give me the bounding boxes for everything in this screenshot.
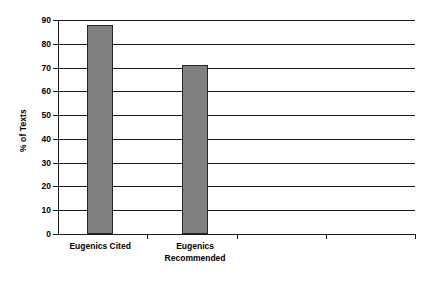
bar bbox=[87, 25, 113, 234]
y-axis-line bbox=[58, 20, 59, 234]
y-tick-label: 60 bbox=[42, 87, 51, 96]
y-tick-label: 40 bbox=[42, 135, 51, 144]
x-axis-line bbox=[58, 234, 415, 235]
y-axis-title: % of Texts bbox=[16, 86, 30, 176]
y-tick-label: 0 bbox=[46, 230, 51, 239]
y-tick-label: 10 bbox=[42, 206, 51, 215]
y-tick-label: 50 bbox=[42, 111, 51, 120]
plot-area: 0102030405060708090 bbox=[58, 20, 415, 234]
x-tick-mark bbox=[415, 234, 416, 239]
x-category-label: Eugenics Recommended bbox=[165, 241, 226, 264]
x-category-label: Eugenics Cited bbox=[69, 241, 130, 253]
gridline bbox=[58, 20, 415, 21]
y-tick-label: 90 bbox=[42, 16, 51, 25]
y-tick-label: 70 bbox=[42, 63, 51, 72]
x-axis-labels: Eugenics CitedEugenics Recommended bbox=[58, 241, 415, 281]
bar-chart-figure: % of Texts 0102030405060708090 Eugenics … bbox=[0, 0, 432, 284]
y-tick-label: 30 bbox=[42, 158, 51, 167]
y-tick-label: 20 bbox=[42, 182, 51, 191]
y-tick-label: 80 bbox=[42, 40, 51, 49]
bar bbox=[182, 65, 208, 234]
